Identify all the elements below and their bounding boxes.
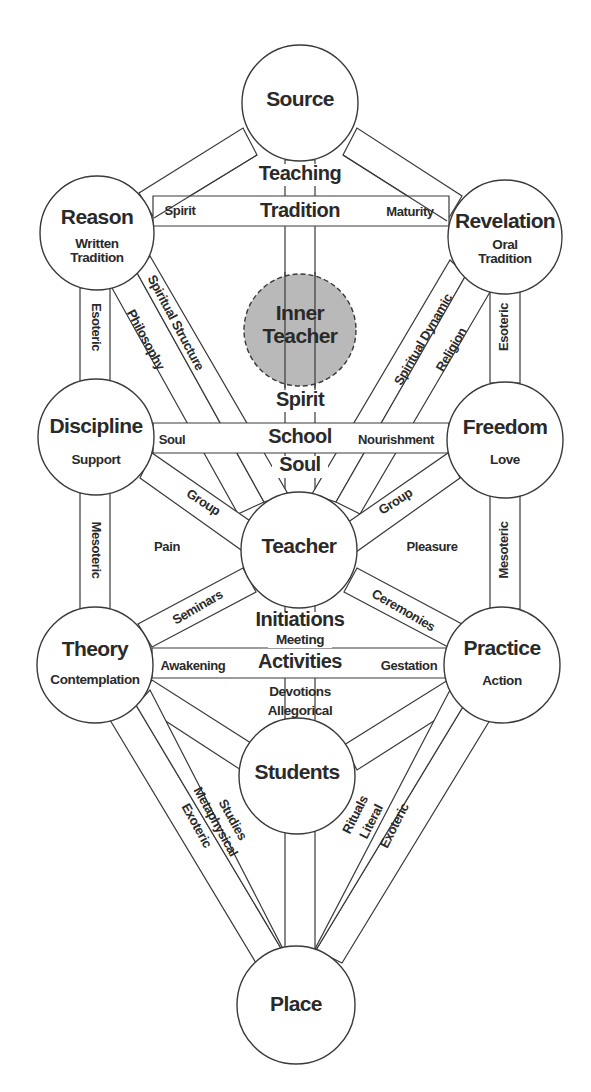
activities-label: Activities — [258, 650, 342, 672]
discipline-theory-label: Mesoteric — [89, 521, 104, 578]
inner-teacher-line2: Teacher — [263, 324, 338, 347]
freedom-title: Freedom — [463, 415, 548, 438]
students-title: Students — [254, 760, 339, 783]
pleasure-label: Pleasure — [406, 539, 457, 554]
theory-subtitle: Contemplation — [50, 672, 139, 687]
school-left-label: Soul — [159, 432, 186, 447]
pain-label: Pain — [154, 539, 180, 554]
reason-subtitle-1: Written — [75, 236, 119, 251]
school-right-label: Nourishment — [358, 432, 435, 447]
reason-title: Reason — [61, 205, 133, 228]
theory-node — [37, 607, 153, 723]
revelation-subtitle-1: Oral — [492, 237, 517, 252]
reason-node — [40, 176, 154, 290]
school-label: School — [268, 425, 332, 447]
freedom-practice-label: Mesoteric — [496, 521, 511, 578]
teaching-label: Teaching — [259, 162, 341, 184]
freedom-node — [447, 382, 563, 498]
practice-subtitle: Action — [482, 673, 522, 688]
discipline-node — [38, 379, 154, 495]
discipline-subtitle: Support — [72, 452, 122, 467]
teacher-title: Teacher — [262, 534, 337, 557]
tradition-left-label: Spirit — [165, 203, 197, 218]
revelation-subtitle-2: Tradition — [478, 251, 532, 266]
practice-title: Practice — [464, 636, 541, 659]
meeting-label: Meeting — [276, 632, 324, 647]
spirit-label: Spirit — [276, 388, 325, 410]
devotions-label: Devotions — [269, 684, 331, 699]
reason-discipline-label: Esoteric — [89, 303, 104, 351]
theory-title: Theory — [62, 637, 129, 660]
tradition-right-label: Maturity — [386, 204, 435, 219]
practice-node — [444, 607, 560, 723]
allegorical-label: Allegorical — [268, 703, 333, 718]
tree-of-life-diagram: Source Reason Written Tradition Revelati… — [0, 0, 591, 1092]
reason-subtitle-2: Tradition — [70, 250, 124, 265]
activities-left-label: Awakening — [161, 658, 226, 673]
revelation-freedom-label: Esoteric — [496, 303, 511, 351]
activities-right-label: Gestation — [381, 658, 438, 673]
discipline-title: Discipline — [49, 414, 142, 437]
soul-label: Soul — [279, 453, 320, 475]
initiations-label: Initiations — [256, 608, 345, 630]
tradition-label: Tradition — [260, 199, 340, 221]
inner-teacher-line1: Inner — [276, 301, 325, 324]
source-title: Source — [266, 87, 334, 110]
revelation-title: Revelation — [455, 209, 555, 232]
place-title: Place — [270, 992, 322, 1015]
freedom-subtitle: Love — [490, 452, 521, 467]
